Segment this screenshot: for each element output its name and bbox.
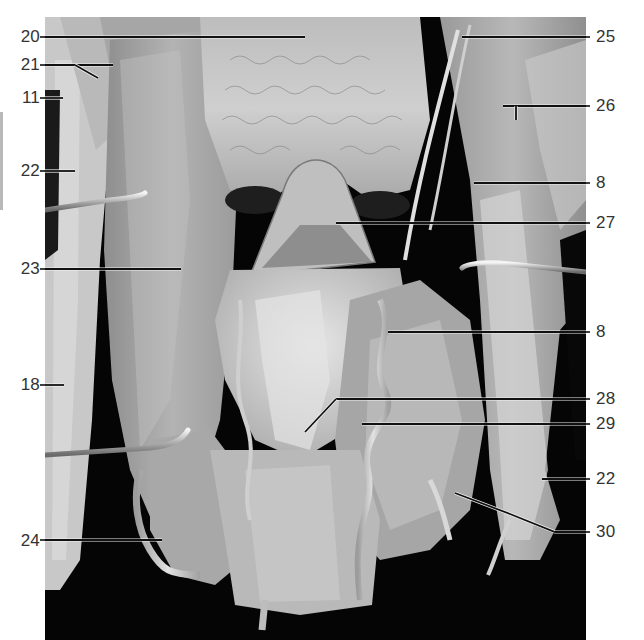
label-20: 20 (4, 28, 40, 46)
label-8-upper: 8 (596, 174, 606, 192)
label-22-right: 22 (596, 470, 615, 488)
label-8-lower: 8 (596, 323, 606, 341)
dissection-photograph (0, 0, 644, 640)
label-23: 23 (4, 260, 40, 278)
label-18: 18 (4, 376, 40, 394)
label-24: 24 (4, 532, 40, 550)
label-29: 29 (596, 415, 615, 433)
label-27: 27 (596, 214, 615, 232)
label-11: 11 (4, 89, 40, 107)
label-25: 25 (596, 28, 615, 46)
label-22-left: 22 (4, 162, 40, 180)
label-26: 26 (596, 97, 615, 115)
label-28: 28 (596, 390, 615, 408)
label-21: 21 (4, 56, 40, 74)
anatomical-figure: 20 21 11 22 23 18 24 25 26 8 27 8 28 29 … (0, 0, 644, 640)
label-30: 30 (596, 523, 615, 541)
